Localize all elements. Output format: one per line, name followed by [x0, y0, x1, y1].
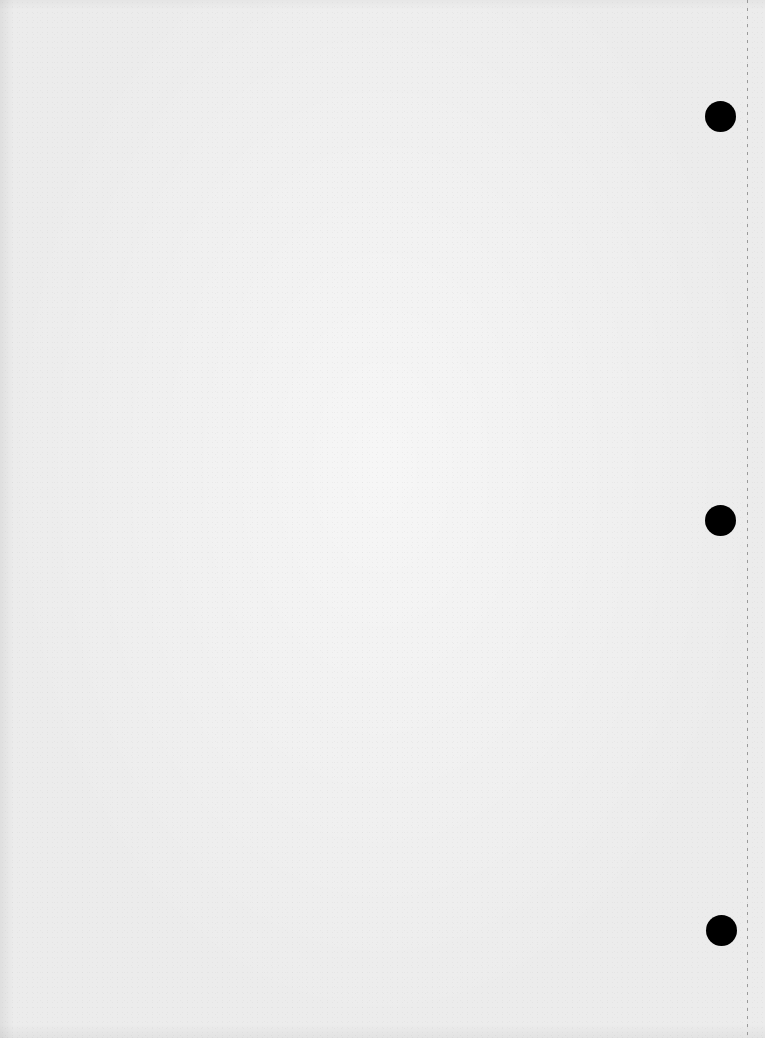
paper-texture	[0, 0, 765, 1038]
punch-hole-middle	[705, 505, 736, 536]
perforation-line	[747, 0, 748, 1038]
punch-hole-top	[705, 101, 736, 132]
paper-sheet	[0, 0, 765, 1038]
punch-hole-bottom	[706, 915, 737, 946]
